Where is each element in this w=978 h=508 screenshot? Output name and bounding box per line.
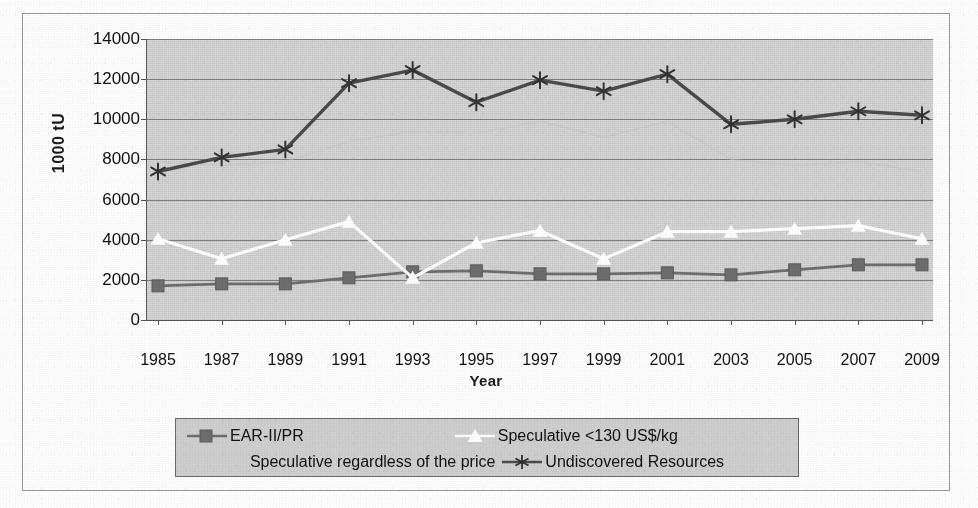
legend-item-speculative-under-130[interactable]: Speculative <130 US$/kg	[454, 427, 678, 445]
legend-label-undiscovered-resources: Undiscovered Resources	[545, 453, 724, 471]
data-point-marker	[216, 278, 228, 290]
x-axis-title: Year	[23, 372, 949, 389]
y-axis-tick-label: 2000	[102, 270, 140, 290]
x-axis-tick-label: 1989	[268, 351, 304, 369]
x-axis-tickmark	[604, 320, 605, 325]
legend-row-2: Speculative regardless of the price Undi…	[186, 449, 788, 475]
y-axis-tickmark	[141, 79, 146, 80]
y-axis-tickmark	[141, 119, 146, 120]
x-axis-tickmark	[285, 320, 286, 325]
y-axis-tick-label: 0	[131, 310, 140, 330]
y-axis-tickmark	[141, 240, 146, 241]
x-axis-tick-label: 1995	[459, 351, 495, 369]
x-axis-tick-label: 1999	[586, 351, 622, 369]
legend-label-speculative-regardless: Speculative regardless of the price	[250, 453, 495, 471]
legend-item-speculative-regardless[interactable]: Speculative regardless of the price	[250, 453, 495, 471]
y-axis-tick-label: 8000	[102, 149, 140, 169]
x-axis-tick-label: 1993	[395, 351, 431, 369]
data-point-marker	[852, 259, 864, 271]
y-axis-tickmark	[141, 39, 146, 40]
y-axis-tickmark	[141, 320, 146, 321]
chart-legend: EAR-II/PR Speculative <130 US$/kg Specul…	[175, 418, 799, 477]
y-axis-tickmark	[141, 280, 146, 281]
x-axis-tickmark	[540, 320, 541, 325]
y-axis-tickmark	[141, 159, 146, 160]
data-point-marker	[151, 232, 166, 245]
x-axis-tick-label: 2009	[904, 351, 940, 369]
data-point-marker	[916, 259, 928, 271]
page-frame: 1000 tU 02000400060008000100001200014000…	[22, 13, 950, 491]
plot-area: 02000400060008000100001200014000 1985198…	[146, 39, 933, 321]
data-point-marker	[342, 215, 357, 228]
x-axis-tick-label: 2005	[777, 351, 813, 369]
data-point-marker	[598, 268, 610, 280]
x-axis-tickmark	[795, 320, 796, 325]
x-axis-tick-label: 2001	[650, 351, 686, 369]
data-point-marker	[343, 272, 355, 284]
data-point-marker	[534, 268, 546, 280]
y-axis-tick-label: 6000	[102, 190, 140, 210]
x-axis-tickmark	[667, 320, 668, 325]
x-axis-tick-label: 1997	[522, 351, 558, 369]
star-marker-icon	[501, 454, 543, 470]
data-point-marker	[661, 267, 673, 279]
x-axis-tickmark	[858, 320, 859, 325]
legend-label-ear-ii-pr: EAR-II/PR	[230, 427, 304, 445]
y-axis-tick-label: 12000	[93, 69, 140, 89]
legend-item-ear-ii-pr[interactable]: EAR-II/PR	[186, 427, 304, 445]
y-axis-tickmark	[141, 200, 146, 201]
x-axis-tick-label: 1985	[140, 351, 176, 369]
y-axis-tick-label: 14000	[93, 29, 140, 49]
legend-row-1: EAR-II/PR Speculative <130 US$/kg	[186, 423, 788, 449]
x-axis-tick-label: 1987	[204, 351, 240, 369]
legend-label-speculative-under-130: Speculative <130 US$/kg	[498, 427, 678, 445]
triangle-marker-icon	[454, 428, 496, 444]
x-axis-tick-label: 2007	[841, 351, 877, 369]
y-axis-tick-label: 10000	[93, 109, 140, 129]
legend-item-undiscovered-resources[interactable]: Undiscovered Resources	[495, 453, 724, 471]
x-axis-tickmark	[922, 320, 923, 325]
data-point-marker	[789, 264, 801, 276]
x-axis-tickmark	[413, 320, 414, 325]
x-axis-tickmark	[349, 320, 350, 325]
x-axis-tick-label: 2003	[713, 351, 749, 369]
series-ear-ii-pr	[152, 259, 928, 292]
x-axis-tickmark	[222, 320, 223, 325]
series-speculative-regardless-of-the-price	[158, 121, 922, 171]
data-point-marker	[279, 278, 291, 290]
series-line	[158, 121, 922, 171]
data-point-marker	[470, 265, 482, 277]
series-plot	[147, 39, 933, 320]
y-axis-title: 1000 tU	[50, 73, 68, 213]
x-axis-tickmark	[731, 320, 732, 325]
x-axis-tickmark	[158, 320, 159, 325]
x-axis-tickmark	[476, 320, 477, 325]
square-marker-icon	[186, 428, 228, 444]
x-axis-tick-label: 1991	[331, 351, 367, 369]
data-point-marker	[725, 269, 737, 281]
data-point-marker	[152, 280, 164, 292]
y-axis-tick-label: 4000	[102, 230, 140, 250]
